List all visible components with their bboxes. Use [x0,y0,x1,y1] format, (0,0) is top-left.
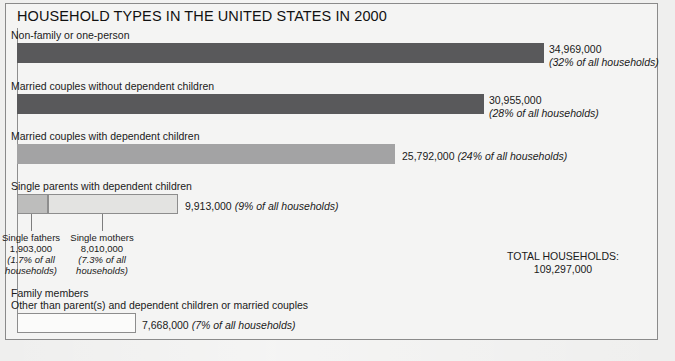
segment-value-single-fathers: 1,903,000 [0,243,63,254]
bar-label-single-parents: Single parents with dependent children [11,180,192,192]
segment-value-single-mothers: 8,010,000 [69,243,135,254]
bar-label-married-without: Married couples without dependent childr… [11,80,214,92]
chart-title: HOUSEHOLD TYPES IN THE UNITED STATES IN … [17,8,387,24]
total-households-annotation: TOTAL HOUSEHOLDS: 109,297,000 [498,250,628,275]
bar-label-nonfamily: Non-family or one-person [11,29,129,41]
bar-value-married-with: 25,792,000 (24% of all households) [402,150,567,163]
bar-value-number-single-parents: 9,913,000 [185,200,232,212]
bar-value-family-members: 7,668,000 (7% of all households) [142,319,296,332]
segment-annotation-single-mothers: Single mothers 8,010,000 (7.3% of all ho… [69,232,135,276]
bar-value-number-nonfamily: 34,969,000 [549,43,602,55]
bar-value-married-without: 30,955,000 (28% of all households) [489,94,599,119]
chart-figure: HOUSEHOLD TYPES IN THE UNITED STATES IN … [5,3,658,340]
bar-label-married-with: Married couples with dependent children [11,130,200,142]
bar-single-parents[interactable] [17,194,178,214]
bar-segment-single-mothers[interactable] [48,194,178,214]
segment-percent-line1-single-mothers: (7.3% of all [69,254,135,265]
bar-value-percent-family-members: (7% of all households) [192,319,296,331]
leader-line-single-fathers [31,214,32,231]
bar-value-percent-nonfamily: (32% of all households) [549,56,659,69]
bar-value-number-married-without: 30,955,000 [489,94,542,106]
bar-family-members[interactable] [17,313,136,333]
segment-percent-line2-single-fathers: households) [0,265,63,276]
bar-value-percent-married-with: (24% of all households) [457,150,567,162]
bar-label-family-members: Family members [11,287,89,299]
bar-value-percent-single-parents: (9% of all households) [235,200,339,212]
total-households-label: TOTAL HOUSEHOLDS: [507,250,619,262]
segment-name-single-mothers: Single mothers [69,232,135,243]
bar-value-percent-married-without: (28% of all households) [489,107,599,120]
segment-percent-line1-single-fathers: (1.7% of all [0,254,63,265]
bar-value-number-family-members: 7,668,000 [142,319,189,331]
bar-married-without[interactable] [17,94,484,114]
leader-line-single-mothers [102,214,103,231]
bar-value-number-married-with: 25,792,000 [402,150,455,162]
total-households-value: 109,297,000 [534,263,592,275]
segment-percent-line2-single-mothers: households) [69,265,135,276]
bar-value-single-parents: 9,913,000 (9% of all households) [185,200,339,213]
bar-sublabel-family-members: Other than parent(s) and dependent child… [11,299,308,311]
bar-segment-single-fathers[interactable] [17,194,48,214]
bar-value-nonfamily: 34,969,000 (32% of all households) [549,43,659,68]
bar-nonfamily[interactable] [17,43,544,63]
bar-married-with[interactable] [17,144,395,164]
segment-name-single-fathers: Single fathers [0,232,63,243]
segment-annotation-single-fathers: Single fathers 1,903,000 (1.7% of all ho… [0,232,63,276]
